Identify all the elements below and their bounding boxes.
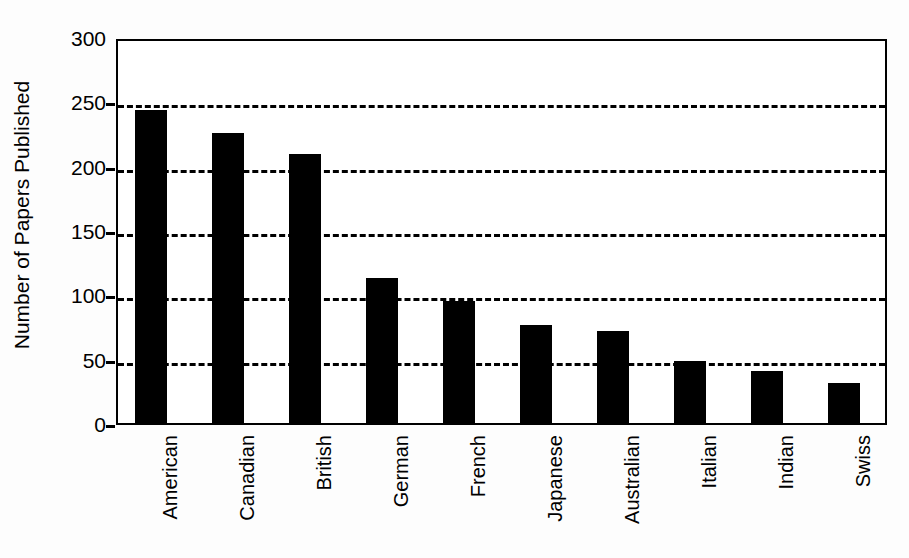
bar <box>597 331 629 423</box>
bar <box>212 133 244 423</box>
y-axis-title: Number of Papers Published <box>0 5 44 425</box>
y-axis-tick-labels: 050100150200250300 <box>44 0 106 558</box>
y-tick-label: 0 <box>52 414 106 435</box>
y-tick-label: 150 <box>52 221 106 242</box>
bar <box>751 371 783 423</box>
y-tick-mark <box>106 296 115 299</box>
plot-area <box>116 39 887 425</box>
y-tick-label: 300 <box>52 28 106 49</box>
y-tick-label: 200 <box>52 157 106 178</box>
bar-chart: Number of Papers Published 0501001502002… <box>0 0 909 558</box>
x-tick-label: Swiss <box>851 435 875 558</box>
x-tick-label: Canadian <box>235 435 259 558</box>
y-tick-mark <box>106 361 115 364</box>
gridline <box>118 105 885 108</box>
x-tick-label: Japanese <box>543 435 567 558</box>
x-tick-label: German <box>389 435 413 558</box>
y-tick-label: 100 <box>52 285 106 306</box>
y-tick-mark <box>106 103 115 106</box>
bar <box>443 301 475 423</box>
x-tick-label: French <box>466 435 490 558</box>
x-tick-label: Indian <box>774 435 798 558</box>
bar <box>366 278 398 423</box>
y-tick-label: 50 <box>52 350 106 371</box>
y-tick-mark <box>106 232 115 235</box>
x-axis-tick-labels: AmericanCanadianBritishGermanFrenchJapan… <box>116 425 887 558</box>
bar <box>828 383 860 423</box>
y-tick-label: 250 <box>52 92 106 113</box>
y-tick-mark <box>106 425 115 428</box>
x-tick-label: American <box>158 435 182 558</box>
x-tick-label: Australian <box>620 435 644 558</box>
bar <box>520 325 552 423</box>
bar <box>135 110 167 423</box>
x-tick-label: British <box>312 435 336 558</box>
bar <box>674 361 706 423</box>
x-tick-label: Italian <box>697 435 721 558</box>
y-tick-mark <box>106 168 115 171</box>
bar <box>289 154 321 423</box>
